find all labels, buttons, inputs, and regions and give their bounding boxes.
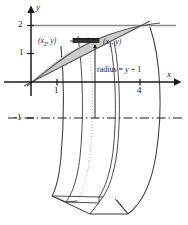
radius-label-prefix: radius =: [97, 65, 125, 74]
point-label-x1-tail: , y): [112, 37, 122, 46]
point-label-x1: (x1, y): [103, 38, 121, 48]
point-label-x2: (x2, y): [38, 37, 56, 47]
solid-outer-right-edge: [128, 27, 160, 214]
x-axis-label: x: [167, 70, 171, 79]
x-tick-label-4: 4: [137, 86, 142, 95]
point-label-x2-tail: , y): [47, 36, 57, 45]
y-tick-label-1: 1: [19, 48, 24, 57]
boundary-line-upper: [24, 21, 150, 86]
solid-base-front-face: [90, 197, 103, 214]
solid-of-revolution-figure: y x 2 1 -1 1 4 (x2, y) (x1, y) radius = …: [0, 0, 188, 225]
x-tick-label-1: 1: [54, 86, 59, 95]
solid-base-outer-ring: [52, 196, 128, 214]
solid-center-dotted-line: [77, 37, 92, 201]
solid-base-right-face: [117, 200, 128, 214]
solid-base-outer-ring-back: [52, 196, 103, 197]
y-axis-label: y: [36, 3, 40, 12]
representative-rectangle: [73, 39, 99, 43]
radius-label: radius = y + 1: [97, 66, 141, 74]
figure-canvas: [0, 0, 188, 225]
y-tick-label-2: 2: [18, 20, 23, 29]
boundary-curve-lower: [27, 23, 160, 86]
radius-label-suffix: + 1: [129, 65, 142, 74]
y-tick-label-neg1: -1: [14, 113, 22, 122]
